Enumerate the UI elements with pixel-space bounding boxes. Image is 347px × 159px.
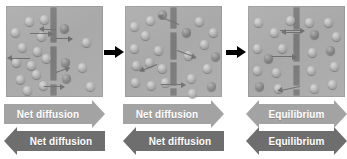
membrane-segment — [51, 8, 56, 42]
solute-particle — [203, 64, 212, 73]
solute-particle — [32, 70, 41, 79]
panel-1-cell-box — [6, 6, 103, 97]
solute-particle — [211, 52, 220, 61]
band-label: Equilibrium — [268, 136, 324, 147]
molecule-motion-arrow — [272, 56, 296, 57]
solute-particle — [253, 66, 262, 75]
solute-particle — [146, 16, 155, 25]
band-net-diffusion-right: Net diffusion — [123, 104, 224, 124]
solute-particle — [270, 28, 279, 37]
arrowhead-right-icon — [211, 100, 224, 128]
band-net-diffusion-left: Net diffusion — [4, 131, 105, 151]
arrowhead-right-icon — [92, 100, 105, 128]
solute-particle — [23, 86, 32, 95]
solute-particle — [86, 82, 95, 91]
solute-particle — [147, 81, 156, 90]
band-label: Equilibrium — [268, 109, 324, 120]
molecule-motion-arrow — [40, 29, 56, 30]
solute-particle — [27, 61, 36, 70]
band-net-diffusion-left: Net diffusion — [123, 131, 224, 151]
solute-particle — [78, 63, 87, 72]
arrowhead-right-icon — [334, 100, 347, 128]
molecule-motion-arrow — [8, 58, 30, 59]
arrowhead-left-icon — [4, 127, 17, 155]
band-equilibrium-both-bottom: Equilibrium — [246, 131, 347, 151]
molecule-motion-arrow — [56, 38, 72, 39]
membrane-segment — [171, 89, 176, 95]
solute-particle — [255, 82, 264, 91]
solute-particle — [310, 30, 319, 39]
band-net-diffusion-right: Net diffusion — [4, 104, 105, 124]
membrane-segment — [171, 8, 176, 28]
band-equilibrium-both-top: Equilibrium — [246, 104, 347, 124]
panel-2-to-3-arrow — [226, 50, 237, 55]
arrowhead-left-icon — [246, 127, 259, 155]
solute-particle — [33, 47, 42, 56]
solute-particle — [207, 82, 216, 91]
solute-particle — [188, 89, 197, 98]
solute-particle — [324, 18, 333, 27]
panel-1-to-2-arrow — [104, 50, 115, 55]
molecule-motion-arrow — [30, 33, 52, 34]
solute-particle — [307, 66, 316, 75]
solute-particle — [286, 16, 295, 25]
band-label: Net diffusion — [30, 136, 92, 147]
membrane-segment — [171, 63, 176, 85]
solute-particle — [187, 74, 196, 83]
solute-particle — [278, 44, 287, 53]
band-label: Net diffusion — [149, 136, 211, 147]
solute-particle — [254, 18, 263, 27]
solute-particle — [131, 78, 140, 87]
membrane-segment — [294, 90, 299, 95]
solute-particle — [42, 54, 51, 63]
solute-particle — [310, 84, 319, 93]
solute-particle — [60, 24, 69, 33]
solute-particle — [161, 78, 170, 87]
arrowhead-left-icon — [123, 127, 136, 155]
molecule-motion-arrow — [282, 32, 300, 33]
solute-particle — [272, 68, 281, 77]
solute-particle — [328, 80, 337, 89]
solute-particle — [82, 38, 91, 47]
solute-particle — [130, 22, 139, 31]
solute-particle — [330, 62, 339, 71]
membrane-segment — [51, 47, 56, 80]
solute-particle — [209, 28, 218, 37]
solute-particle — [332, 32, 341, 41]
panel-3: EquilibriumEquilibrium — [246, 0, 347, 159]
solute-particle — [12, 58, 21, 67]
molecule-motion-arrow — [56, 67, 69, 73]
solute-particle — [141, 31, 150, 40]
panel-2-cell-box — [125, 6, 222, 97]
band-label: Net diffusion — [17, 109, 79, 120]
solute-particle — [158, 64, 167, 73]
solute-particle — [305, 18, 314, 27]
solute-particle — [154, 46, 163, 55]
solute-particle — [308, 48, 317, 57]
arrowhead-left-icon — [246, 100, 259, 128]
solute-particle — [195, 17, 204, 26]
solute-particle — [62, 74, 71, 83]
molecule-motion-arrow — [161, 84, 185, 85]
arrowhead-right-icon — [334, 127, 347, 155]
solute-particle — [25, 17, 34, 26]
membrane-segment — [171, 33, 176, 59]
membrane-segment — [294, 66, 299, 85]
panel-2: Net diffusionNet diffusion — [123, 0, 224, 159]
solute-particle — [130, 44, 139, 53]
solute-particle — [16, 75, 25, 84]
solute-particle — [200, 40, 209, 49]
solute-particle — [253, 44, 262, 53]
solute-particle — [18, 43, 27, 52]
molecule-motion-arrow — [44, 86, 64, 87]
solute-particle — [182, 28, 191, 37]
panel-3-cell-box — [248, 6, 345, 97]
solute-particle — [11, 28, 20, 37]
solute-particle — [326, 46, 335, 55]
band-label: Net diffusion — [136, 109, 198, 120]
panel-1: Net diffusionNet diffusion — [4, 0, 105, 159]
solute-particle — [40, 15, 49, 24]
molecule-motion-arrow — [158, 16, 179, 25]
